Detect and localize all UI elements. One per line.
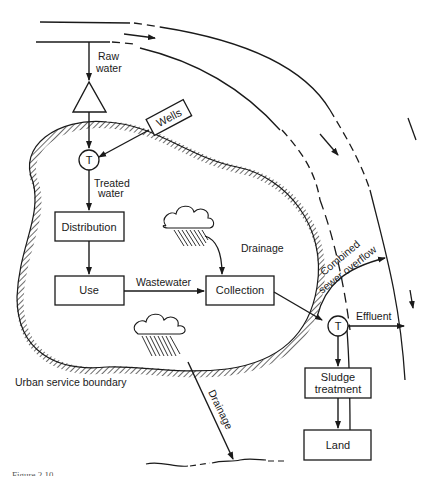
- treatment-symbol-2: T: [335, 320, 342, 332]
- wastewater-treatment-node: T: [328, 316, 348, 336]
- raw-water-label-1: Raw: [98, 50, 119, 62]
- raw-water-label-2: water: [95, 62, 122, 74]
- boundary-label: Urban service boundary: [15, 376, 127, 388]
- wastewater-label: Wastewater: [136, 276, 192, 288]
- collection-label: Collection: [216, 284, 264, 296]
- rain-cloud-icon-2: [134, 314, 185, 356]
- use-label: Use: [79, 284, 99, 296]
- pump-triangle-icon: [73, 82, 106, 112]
- sludge-label-1: Sludge: [321, 371, 355, 383]
- land-label: Land: [326, 439, 350, 451]
- drainage-inner-label: Drainage: [241, 242, 284, 254]
- distribution-label: Distribution: [61, 221, 116, 233]
- urban-water-diagram: Urban service boundary Raw water Wells T…: [0, 0, 441, 480]
- drainage-inner-arrow: [205, 236, 222, 274]
- wells-box: Wells: [146, 100, 192, 136]
- wells-arrow: [99, 130, 149, 157]
- rain-cloud-icon: [163, 206, 213, 246]
- treated-water-label-2: water: [97, 187, 124, 199]
- receiving-stream: [146, 459, 286, 466]
- effluent-label: Effluent: [356, 310, 391, 322]
- water-treatment-node: T: [79, 150, 99, 170]
- treatment-symbol: T: [86, 154, 93, 166]
- sludge-label-2: treatment: [315, 383, 361, 395]
